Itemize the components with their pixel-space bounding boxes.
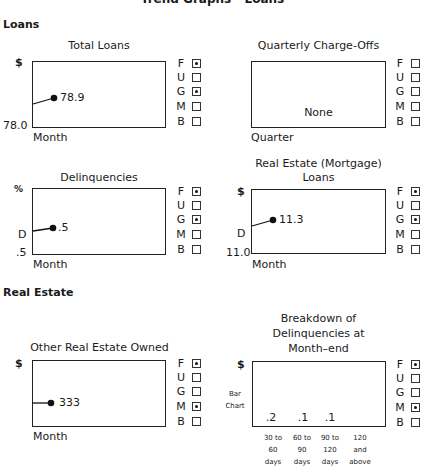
category-label-30-60: 30 to 60 days [259, 432, 287, 468]
panel-title-line3: Month–end [246, 341, 391, 356]
category-label-120-above: 120 and above [345, 432, 375, 468]
checkbox-m[interactable] [192, 402, 201, 411]
checkbox-u[interactable] [411, 374, 420, 383]
checkbox-g[interactable] [411, 388, 420, 397]
checkbox-b[interactable] [192, 417, 201, 426]
x-axis-label: Month [33, 430, 67, 443]
bar-value-90-120: .1 [321, 411, 339, 424]
panel-title-line1: Breakdown of [246, 311, 391, 326]
checkbox-b[interactable] [411, 418, 420, 427]
checkbox-f[interactable] [411, 360, 420, 369]
checkbox-g[interactable] [192, 387, 201, 396]
side-note-line2: Chart [224, 400, 246, 412]
checkbox-u[interactable] [192, 373, 201, 382]
bar-value-60-90: .1 [294, 411, 312, 424]
side-note-line1: Bar [224, 388, 246, 400]
checkbox-f[interactable] [192, 359, 201, 368]
category-label-90-120: 90 to 120 days [316, 432, 344, 468]
category-label-60-90: 60 to 90 days [288, 432, 316, 468]
checkbox-m[interactable] [411, 403, 420, 412]
panel-title-line2: Delinquencies at [246, 326, 391, 341]
point-value-label: 333 [59, 396, 80, 409]
bar-value-30-60: .2 [262, 411, 280, 424]
y-unit-label: $ [237, 358, 245, 371]
